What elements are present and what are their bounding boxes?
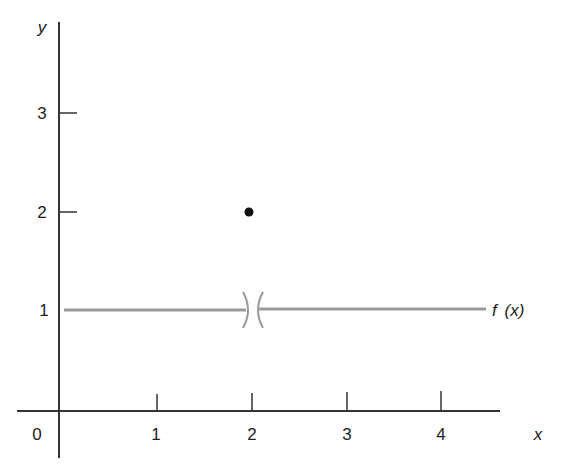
filled-point xyxy=(245,208,254,217)
origin-label: 0 xyxy=(32,425,41,444)
y-axis-label: y xyxy=(37,18,48,37)
function-label: f (x) xyxy=(492,301,524,320)
chart-canvas: 0 1 2 3 4 x 3 2 1 y f (x) xyxy=(0,0,567,475)
function-name: f xyxy=(492,301,499,320)
x-axis-label: x xyxy=(533,425,543,444)
x-tick-label-2: 2 xyxy=(247,425,256,444)
x-tick-label-4: 4 xyxy=(436,425,445,444)
y-tick-label-1: 1 xyxy=(39,301,48,320)
function-argument: (x) xyxy=(504,301,524,320)
y-tick-label-2: 2 xyxy=(37,203,46,222)
y-tick-label-3: 3 xyxy=(37,104,46,123)
x-tick-label-1: 1 xyxy=(151,425,160,444)
x-tick-label-3: 3 xyxy=(342,425,351,444)
